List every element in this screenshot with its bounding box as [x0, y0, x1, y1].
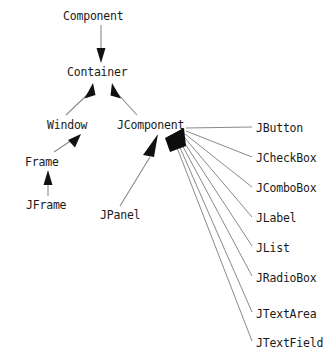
edge-jradiobox-to-jcomponent [180, 141, 252, 276]
edge-jlist-to-jcomponent [182, 139, 252, 246]
edge-jtextarea-to-jcomponent [178, 143, 252, 312]
node-jbutton: JButton [256, 122, 303, 135]
edge-fan-jcomponent-leaves [165, 127, 252, 341]
node-jtextarea: JTextArea [256, 308, 317, 321]
class-hierarchy-diagram: Component Container Window JComponent Fr… [0, 0, 324, 357]
edge-jcheckbox-to-jcomponent [186, 131, 252, 157]
edge-jtextfield-to-jcomponent [176, 145, 252, 341]
node-jframe: JFrame [26, 199, 66, 212]
node-jcombobox: JComboBox [256, 182, 317, 195]
diagram-edge-layer [0, 0, 324, 357]
edge-jframe-to-frame [44, 170, 53, 196]
edge-jpanel-to-jcomponent [120, 134, 158, 206]
node-frame: Frame [25, 156, 59, 169]
edge-jlabel-to-jcomponent [184, 137, 252, 217]
edge-frame-to-window [54, 134, 81, 152]
node-jtextfield: JTextField [256, 337, 323, 350]
node-jcheckbox: JCheckBox [256, 152, 317, 165]
edge-window-to-container [66, 83, 96, 115]
node-jradiobox: JRadioBox [256, 272, 317, 285]
node-window: Window [47, 119, 87, 132]
edge-jbutton-to-jcomponent [186, 127, 252, 128]
node-container: Container [67, 66, 128, 79]
node-jlist: JList [256, 242, 290, 255]
edge-component-to-container [97, 25, 106, 63]
node-jlabel: JLabel [256, 212, 296, 225]
node-component: Component [63, 10, 124, 23]
node-jcomponent: JComponent [117, 119, 184, 132]
edge-jcombobox-to-jcomponent [185, 134, 252, 187]
node-jpanel: JPanel [100, 209, 140, 222]
edge-jcomponent-to-container [111, 83, 138, 115]
